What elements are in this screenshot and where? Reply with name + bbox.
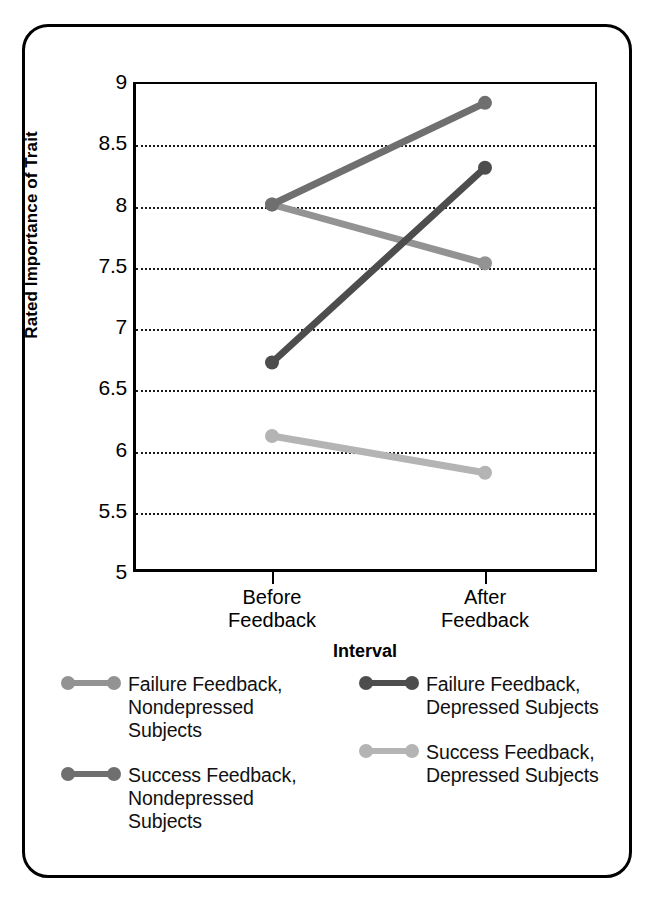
legend-label-line: Subjects xyxy=(128,719,338,742)
data-point xyxy=(478,256,492,270)
legend-label: Failure Feedback,Depressed Subjects xyxy=(426,673,636,719)
x-tick-label-line1: Before xyxy=(228,586,316,609)
series-line xyxy=(272,168,485,363)
data-point xyxy=(265,356,279,370)
legend-line-marker-icon xyxy=(358,743,420,759)
x-tick-label-line2: Feedback xyxy=(228,609,316,632)
legend-label-line: Depressed Subjects xyxy=(426,696,636,719)
x-tick-label-line2: Feedback xyxy=(441,609,529,632)
legend-label-line: Depressed Subjects xyxy=(426,764,636,787)
legend-item[interactable]: Success Feedback,Depressed Subjects xyxy=(356,741,636,787)
data-series-layer xyxy=(133,82,597,572)
x-tick-label-0: BeforeFeedback xyxy=(228,586,316,632)
y-tick-label-6-5: 6.5 xyxy=(98,376,127,400)
x-tick-mark-0 xyxy=(272,572,274,584)
legend-column-left: Failure Feedback,NondepressedSubjectsSuc… xyxy=(58,673,338,855)
y-axis-tick-labels: 98.587.576.565.55 xyxy=(75,82,127,572)
series-0 xyxy=(265,198,492,271)
y-tick-label-7-5: 7.5 xyxy=(98,254,127,278)
legend-label-line: Nondepressed xyxy=(128,696,338,719)
line-chart-figure: 98.587.576.565.55 Rated Importance of Tr… xyxy=(0,0,657,904)
data-point xyxy=(478,96,492,110)
y-tick-label-7: 7 xyxy=(116,315,127,339)
series-line xyxy=(272,436,485,473)
legend-label: Success Feedback,NondepressedSubjects xyxy=(128,764,338,833)
legend-label-line: Nondepressed xyxy=(128,787,338,810)
legend-line-marker-icon xyxy=(60,675,122,691)
series-line xyxy=(272,103,485,205)
legend-line-marker-icon xyxy=(60,766,122,782)
y-tick-label-9: 9 xyxy=(116,70,127,94)
y-tick-label-8: 8 xyxy=(116,193,127,217)
x-tick-mark-1 xyxy=(485,572,487,584)
legend-column-right: Failure Feedback,Depressed SubjectsSucce… xyxy=(356,673,636,809)
x-axis-title: Interval xyxy=(133,641,597,662)
legend-line-marker-icon xyxy=(358,675,420,691)
y-axis-title: Rated Importance of Trait xyxy=(22,85,42,385)
x-tick-label-line1: After xyxy=(441,586,529,609)
legend-item[interactable]: Success Feedback,NondepressedSubjects xyxy=(58,764,338,833)
y-tick-label-5: 5 xyxy=(116,560,127,584)
legend-label-line: Success Feedback, xyxy=(426,741,636,764)
y-tick-label-6: 6 xyxy=(116,438,127,462)
x-tick-label-1: AfterFeedback xyxy=(441,586,529,632)
y-tick-label-5-5: 5.5 xyxy=(98,499,127,523)
legend-label: Success Feedback,Depressed Subjects xyxy=(426,741,636,787)
legend-label-line: Subjects xyxy=(128,810,338,833)
legend-item[interactable]: Failure Feedback,Depressed Subjects xyxy=(356,673,636,719)
legend-label-line: Failure Feedback, xyxy=(128,673,338,696)
data-point xyxy=(265,429,279,443)
legend-label-line: Failure Feedback, xyxy=(426,673,636,696)
legend-label: Failure Feedback,NondepressedSubjects xyxy=(128,673,338,742)
legend-label-line: Success Feedback, xyxy=(128,764,338,787)
data-point xyxy=(478,466,492,480)
series-line xyxy=(272,205,485,264)
x-axis-ticks: BeforeFeedbackAfterFeedback xyxy=(133,572,597,586)
data-point xyxy=(478,161,492,175)
y-tick-label-8-5: 8.5 xyxy=(98,131,127,155)
legend-item[interactable]: Failure Feedback,NondepressedSubjects xyxy=(58,673,338,742)
data-point xyxy=(265,198,279,212)
series-3 xyxy=(265,429,492,480)
